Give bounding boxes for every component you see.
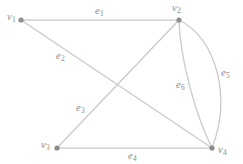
edge-e5 [179,20,221,148]
vertex-label-v4: v4 [218,145,226,156]
vertex-dot-v4 [209,145,214,150]
edge-label-e6: e6 [176,80,184,91]
edge-label-e2: e2 [56,51,64,62]
vertex-dot-v3 [54,145,59,150]
graph-figure: v1 v2 v3 v4 e1 e2 e3 e4 e5 e6 [0,0,243,164]
edge-e3 [57,20,179,148]
edge-label-e5: e5 [221,68,229,79]
edge-label-e1: e1 [95,6,103,17]
edge-label-e3: e3 [76,103,84,114]
vertex-dot-v1 [18,17,23,22]
vertex-dot-v2 [176,17,181,22]
edge-label-e4: e4 [128,151,136,162]
vertex-label-v1: v1 [7,12,15,23]
vertex-label-v3: v3 [41,140,49,151]
graph-canvas [0,0,243,164]
vertex-label-v2: v2 [172,3,180,14]
